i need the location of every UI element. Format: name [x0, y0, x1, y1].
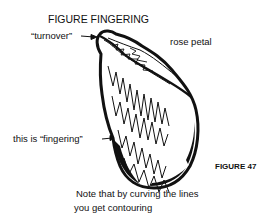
turnover-arrow-icon — [81, 35, 97, 40]
rose-petal-illustration — [0, 0, 277, 223]
petal-shape — [97, 31, 198, 192]
